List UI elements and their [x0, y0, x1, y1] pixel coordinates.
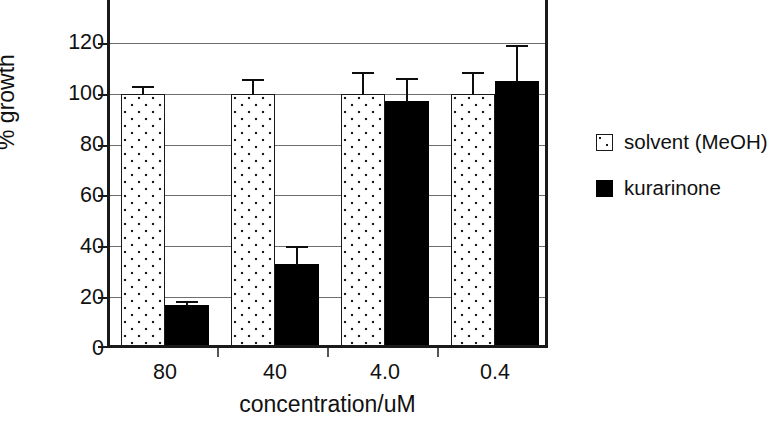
error-bar-kurarinone-4	[385, 78, 429, 103]
x-tick-mark-3	[437, 348, 439, 357]
bar-kurarinone-40[interactable]	[275, 264, 319, 347]
legend-item-kurarinone[interactable]: kurarinone	[596, 178, 752, 198]
y-tick-label-60: 60	[42, 185, 104, 206]
legend-item-solvent[interactable]: solvent (MeOH)	[596, 132, 752, 152]
chart-legend: solvent (MeOH) kurarinone	[596, 132, 752, 224]
x-tick-label-40: 40	[230, 360, 320, 384]
bar-kurarinone-4[interactable]	[385, 101, 429, 347]
y-tick-label-80: 80	[42, 134, 104, 155]
x-tick-label-4: 4.0	[340, 360, 430, 384]
legend-label-kurarinone: kurarinone	[624, 178, 721, 198]
x-tick-mark-1	[217, 348, 219, 357]
bar-solvent-04[interactable]	[451, 94, 495, 347]
y-axis-title: % growth	[0, 0, 18, 150]
plot-right-border	[545, 0, 548, 346]
y-tick-label-100: 100	[42, 83, 104, 104]
bar-solvent-80[interactable]	[121, 94, 165, 347]
gridline-120	[107, 43, 548, 44]
bar-kurarinone-80[interactable]	[165, 305, 209, 347]
error-bar-solvent-40	[231, 79, 275, 96]
dotted-box-icon	[596, 134, 613, 151]
error-bar-solvent-04	[451, 72, 495, 96]
error-bar-kurarinone-04	[495, 45, 539, 83]
x-tick-label-04: 0.4	[450, 360, 540, 384]
y-tick-label-20: 20	[42, 287, 104, 308]
bar-kurarinone-04[interactable]	[495, 81, 539, 347]
bar-solvent-40[interactable]	[231, 94, 275, 347]
error-bar-kurarinone-80	[165, 301, 209, 307]
y-tick-label-0: 0	[42, 338, 104, 359]
x-axis-title: concentration/uM	[107, 392, 548, 416]
error-bar-solvent-80	[121, 86, 165, 96]
error-bar-kurarinone-40	[275, 246, 319, 266]
x-tick-mark-2	[327, 348, 329, 357]
y-tick-label-40: 40	[42, 236, 104, 257]
plot-area: 80 40 4.0 0.4	[107, 0, 548, 347]
x-tick-label-80: 80	[120, 360, 210, 384]
bar-solvent-4[interactable]	[341, 94, 385, 347]
error-bar-solvent-4	[341, 72, 385, 96]
legend-label-solvent: solvent (MeOH)	[624, 132, 768, 152]
y-tick-label-120: 120	[42, 32, 104, 53]
y-axis-line	[107, 0, 110, 348]
filled-box-icon	[596, 180, 613, 197]
